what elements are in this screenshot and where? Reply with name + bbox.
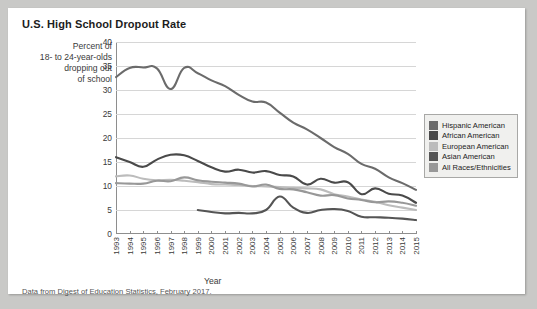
series-layer: [116, 42, 416, 234]
legend-item-label: African American: [442, 131, 499, 140]
page-title: U.S. High School Dropout Rate: [22, 18, 186, 30]
x-tick-label: 2002: [235, 237, 244, 255]
plot-area: 0510152025303540 19931994199519961997199…: [116, 42, 416, 234]
legend-swatch-icon: [429, 131, 438, 140]
y-tick-label: 25: [103, 109, 112, 119]
x-tick-label: 2003: [248, 237, 257, 255]
chart-legend: Hispanic AmericanAfrican AmericanEuropea…: [424, 114, 518, 178]
x-tick-label: 2006: [289, 237, 298, 255]
x-tick-label: 2004: [262, 237, 271, 255]
x-tick-label: 1994: [126, 237, 135, 255]
x-tick-label: 1999: [194, 237, 203, 255]
x-tick-label: 1993: [112, 237, 121, 255]
x-axis-label: Year: [204, 276, 221, 286]
legend-item-label: All Races/Ethnicities: [442, 163, 511, 172]
y-axis-label: Percent of 18- to 24-year-olds dropping …: [20, 41, 112, 85]
x-tick-label: 2001: [221, 237, 230, 255]
legend-swatch-icon: [429, 163, 438, 172]
legend-item[interactable]: Asian American: [429, 152, 513, 161]
x-tick-label: 2012: [371, 237, 380, 255]
y-tick-label: 35: [103, 61, 112, 71]
legend-item-label: European American: [442, 142, 509, 151]
x-tick-label: 1996: [153, 237, 162, 255]
legend-swatch-icon: [429, 142, 438, 151]
x-tick-label: 2011: [357, 237, 366, 254]
legend-swatch-icon: [429, 152, 438, 161]
x-tick-label: 1995: [139, 237, 148, 255]
y-axis-label-line: 18- to 24-year-olds: [20, 52, 112, 63]
x-tick-label: 2008: [317, 237, 326, 255]
y-tick-label: 40: [103, 37, 112, 47]
series-line: [198, 197, 416, 221]
x-tick-label: 2000: [207, 237, 216, 255]
source-caption: Data from Digest of Education Statistics…: [22, 287, 212, 296]
y-tick-label: 15: [103, 157, 112, 167]
series-line: [116, 177, 416, 205]
y-axis-label-line: of school: [20, 74, 112, 85]
y-tick-label: 30: [103, 85, 112, 95]
legend-item-label: Hispanic American: [442, 121, 505, 130]
y-tick-label: 20: [103, 133, 112, 143]
y-axis-label-line: Percent of: [20, 41, 112, 52]
x-tick-label: 2010: [344, 237, 353, 255]
legend-item[interactable]: All Races/Ethnicities: [429, 163, 513, 172]
x-tick-label: 2007: [303, 237, 312, 255]
legend-item[interactable]: African American: [429, 131, 513, 140]
x-tick-label: 2009: [330, 237, 339, 255]
x-tick-label: 2005: [276, 237, 285, 255]
series-line: [116, 154, 416, 203]
x-tick-label: 2014: [398, 237, 407, 255]
chart-card: U.S. High School Dropout Rate Percent of…: [8, 8, 525, 294]
legend-item[interactable]: European American: [429, 142, 513, 151]
x-tick-label: 2015: [412, 237, 421, 255]
y-tick-label: 10: [103, 181, 112, 191]
legend-item[interactable]: Hispanic American: [429, 121, 513, 130]
x-tick-label: 2013: [385, 237, 394, 255]
x-tick-mark: [416, 231, 417, 234]
legend-item-label: Asian American: [442, 152, 495, 161]
y-axis-label-line: dropping out: [20, 63, 112, 74]
legend-swatch-icon: [429, 121, 438, 130]
y-tick-label: 5: [107, 205, 112, 215]
x-tick-label: 1998: [180, 237, 189, 255]
x-tick-label: 1997: [167, 237, 176, 255]
